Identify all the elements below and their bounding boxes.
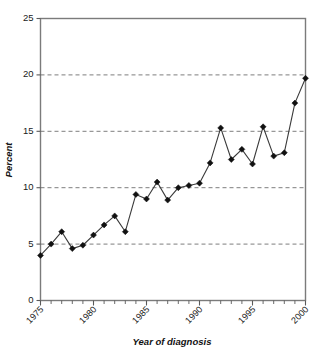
line-chart: 0510152025 197519801985199019952000 Year…: [0, 0, 323, 351]
plot-area-frame: [41, 19, 306, 301]
y-tick-label-15: 15: [23, 125, 34, 136]
y-tick-label-25: 25: [23, 12, 34, 23]
x-axis-title: Year of diagnosis: [133, 336, 212, 347]
y-tick-label-5: 5: [28, 238, 33, 249]
y-tick-label-20: 20: [23, 68, 34, 79]
chart-figure: 0510152025 197519801985199019952000 Year…: [0, 0, 323, 351]
y-tick-label-0: 0: [28, 294, 33, 305]
y-axis-title: Percent: [3, 142, 14, 178]
y-tick-label-10: 10: [23, 181, 34, 192]
